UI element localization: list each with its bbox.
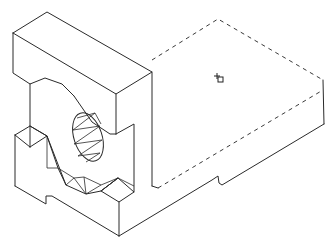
base-plate — [119, 19, 324, 236]
cad-viewport[interactable]: Isometric view of bracket with bored hol… — [0, 0, 336, 247]
upright-block-left-face — [13, 33, 119, 236]
upright-block-top-face — [13, 12, 152, 94]
upright-block-front-face — [74, 72, 152, 192]
isometric-drawing — [0, 0, 336, 247]
bore-hole — [67, 109, 109, 165]
crosshair-cursor-icon — [214, 73, 223, 82]
